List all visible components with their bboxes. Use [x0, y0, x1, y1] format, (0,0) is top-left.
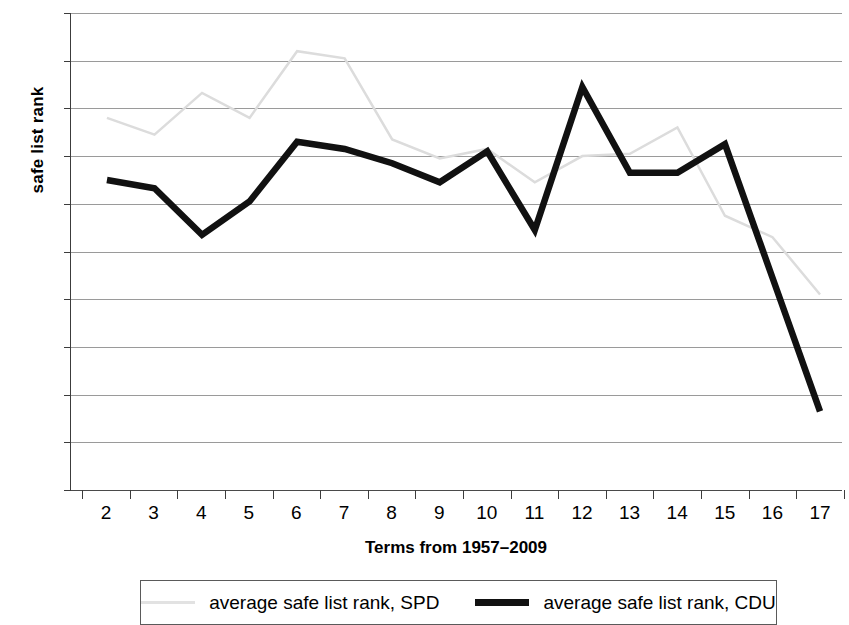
plot-area [70, 13, 842, 490]
x-tick-mark [749, 490, 750, 499]
x-tick-label: 9 [434, 502, 445, 524]
y-axis-title: safe list rank [28, 20, 48, 260]
x-tick-label: 7 [339, 502, 350, 524]
x-tick-mark [511, 490, 512, 499]
x-tick-mark [463, 490, 464, 499]
x-tick-label: 6 [291, 502, 302, 524]
x-tick-label: 16 [762, 502, 783, 524]
x-tick-mark [82, 490, 83, 499]
x-tick-mark [130, 490, 131, 499]
y-tick-mark [64, 108, 71, 109]
y-tick-mark [64, 13, 71, 14]
chart-legend: average safe list rank, SPD average safe… [140, 580, 777, 625]
x-tick-mark [558, 490, 559, 499]
x-tick-mark [701, 490, 702, 499]
x-tick-mark [653, 490, 654, 499]
x-tick-mark [273, 490, 274, 499]
cdu-line-swatch [475, 599, 529, 606]
chart-figure: safe list rank 02468101214161820 2345678… [0, 0, 849, 625]
legend-entry-cdu: average safe list rank, CDU [475, 592, 775, 614]
x-tick-label: 5 [244, 502, 255, 524]
x-tick-label: 15 [714, 502, 735, 524]
x-tick-label: 12 [571, 502, 592, 524]
x-tick-mark [606, 490, 607, 499]
y-tick-mark [64, 299, 71, 300]
x-tick-label: 13 [619, 502, 640, 524]
x-tick-label: 10 [476, 502, 497, 524]
x-tick-mark [796, 490, 797, 499]
y-tick-mark [64, 204, 71, 205]
x-axis-tick-labels: 234567891011121314151617 [70, 502, 842, 536]
x-tick-label: 17 [809, 502, 830, 524]
y-tick-mark [64, 156, 71, 157]
x-tick-label: 3 [148, 502, 159, 524]
x-tick-mark [415, 490, 416, 499]
x-axis-tick-marks [70, 490, 842, 502]
x-tick-mark [844, 490, 845, 499]
y-tick-mark [64, 347, 71, 348]
x-tick-mark [177, 490, 178, 499]
x-tick-label: 14 [667, 502, 688, 524]
x-tick-mark [225, 490, 226, 499]
legend-entry-spd: average safe list rank, SPD [141, 592, 439, 614]
spd-line-swatch [141, 601, 195, 604]
x-tick-mark [368, 490, 369, 499]
legend-label-spd: average safe list rank, SPD [209, 592, 439, 614]
x-tick-mark [320, 490, 321, 499]
series-line [107, 51, 820, 294]
y-tick-mark [64, 61, 71, 62]
y-tick-mark [64, 395, 71, 396]
y-tick-mark [64, 252, 71, 253]
x-tick-label: 4 [196, 502, 207, 524]
series-line [107, 87, 820, 411]
x-tick-label: 8 [386, 502, 397, 524]
x-tick-label: 2 [101, 502, 112, 524]
legend-label-cdu: average safe list rank, CDU [543, 592, 775, 614]
y-tick-mark [64, 442, 71, 443]
x-tick-label: 11 [525, 502, 545, 524]
series-layer [71, 13, 842, 490]
x-axis-title: Terms from 1957–2009 [70, 538, 842, 558]
